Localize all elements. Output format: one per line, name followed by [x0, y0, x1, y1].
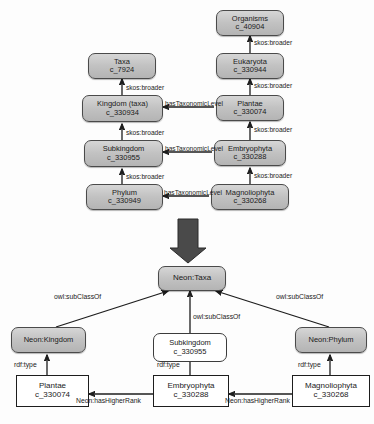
- node-neon-taxa[interactable]: Neon:Taxa: [158, 266, 226, 291]
- node-code: c_330074: [35, 391, 70, 400]
- node-code: c_330288: [173, 391, 208, 400]
- node-code: c_330949: [108, 197, 141, 205]
- node-lower-subkingdom[interactable]: Subkingdom c_330955: [153, 333, 227, 362]
- node-instance-embryophyta[interactable]: Embryophyta c_330288: [153, 375, 229, 407]
- node-code: c_330944: [234, 66, 267, 74]
- node-organisms[interactable]: Organisms c_40904: [216, 10, 284, 36]
- edge-label-skos-broader-organisms: skos:broader: [254, 39, 292, 46]
- node-code: c_330934: [106, 109, 139, 117]
- node-neon-kingdom[interactable]: Neon:Kingdom: [11, 327, 86, 353]
- node-neon-phylum[interactable]: Neon:Phylum: [295, 327, 367, 353]
- node-code: c_330268: [234, 197, 267, 205]
- edge-label-has-taxonomic-level-phylum: hasTaxonomicLevel: [164, 189, 222, 196]
- edge-label-owl-subclassof-left: owl:subClassOf: [54, 293, 101, 300]
- edge-label-rdf-type-left: rdf:type: [14, 361, 37, 368]
- node-code: c_40904: [236, 23, 265, 31]
- node-instance-magnoliophyta[interactable]: Magnoliophyta c_330268: [292, 375, 370, 407]
- edge-label-owl-subclassof-middle: owl:subClassOf: [193, 313, 240, 320]
- edge-label-skos-broader-plantae: skos:broader: [254, 126, 292, 133]
- node-code: c_330955: [174, 348, 207, 357]
- node-code: c_330268: [313, 391, 348, 400]
- edge-label-rdf-type-right: rdf:type: [298, 361, 321, 368]
- node-magnoliophyta[interactable]: Magnoliophyta c_330268: [211, 184, 289, 210]
- node-subkingdom[interactable]: Subkingdom c_330955: [84, 140, 163, 167]
- node-label: Neon:Taxa: [173, 274, 211, 283]
- edge-label-skos-broader-kingdom: skos:broader: [126, 129, 164, 136]
- node-label: Neon:Phylum: [308, 336, 353, 344]
- flow-down-arrow-icon: [168, 218, 208, 264]
- node-phylum[interactable]: Phylum c_330949: [86, 184, 163, 210]
- edge-label-has-taxonomic-level-kingdom: hasTaxonomicLevel: [165, 100, 223, 107]
- node-eukaryota[interactable]: Eukaryota c_330944: [216, 53, 284, 79]
- node-code: c_7924: [110, 66, 135, 74]
- edge-label-skos-broader-embryophyta: skos:broader: [254, 172, 292, 179]
- edge-label-has-taxonomic-level-subkingdom: hasTaxonomicLevel: [165, 145, 223, 152]
- node-plantae[interactable]: Plantae c_330074: [216, 95, 284, 121]
- edge-label-owl-subclassof-right: owl:subClassOf: [276, 293, 323, 300]
- node-taxa[interactable]: Taxa c_7924: [88, 53, 156, 79]
- edge-label-has-higher-rank-right: Neon:hasHigherRank: [225, 397, 290, 404]
- edge-label-skos-broader-eukaryota: skos:broader: [254, 82, 292, 89]
- diagram-canvas: Organisms c_40904 Eukaryota c_330944 Pla…: [0, 0, 374, 424]
- node-code: c_330955: [107, 154, 140, 162]
- node-kingdom-taxa[interactable]: Kingdom (taxa) c_330934: [82, 95, 163, 122]
- node-label: Neon:Kingdom: [24, 336, 74, 344]
- edge-label-skos-broader-taxa: skos:broader: [126, 84, 164, 91]
- edge-label-has-higher-rank-left: Neon:hasHigherRank: [76, 397, 141, 404]
- node-code: c_330288: [234, 153, 267, 161]
- edge-label-rdf-type-middle: rdf:type: [157, 361, 180, 368]
- node-code: c_330074: [234, 108, 267, 116]
- edge-label-skos-broader-subkingdom: skos:broader: [126, 173, 164, 180]
- node-embryophyta[interactable]: Embryophyta c_330288: [214, 140, 286, 166]
